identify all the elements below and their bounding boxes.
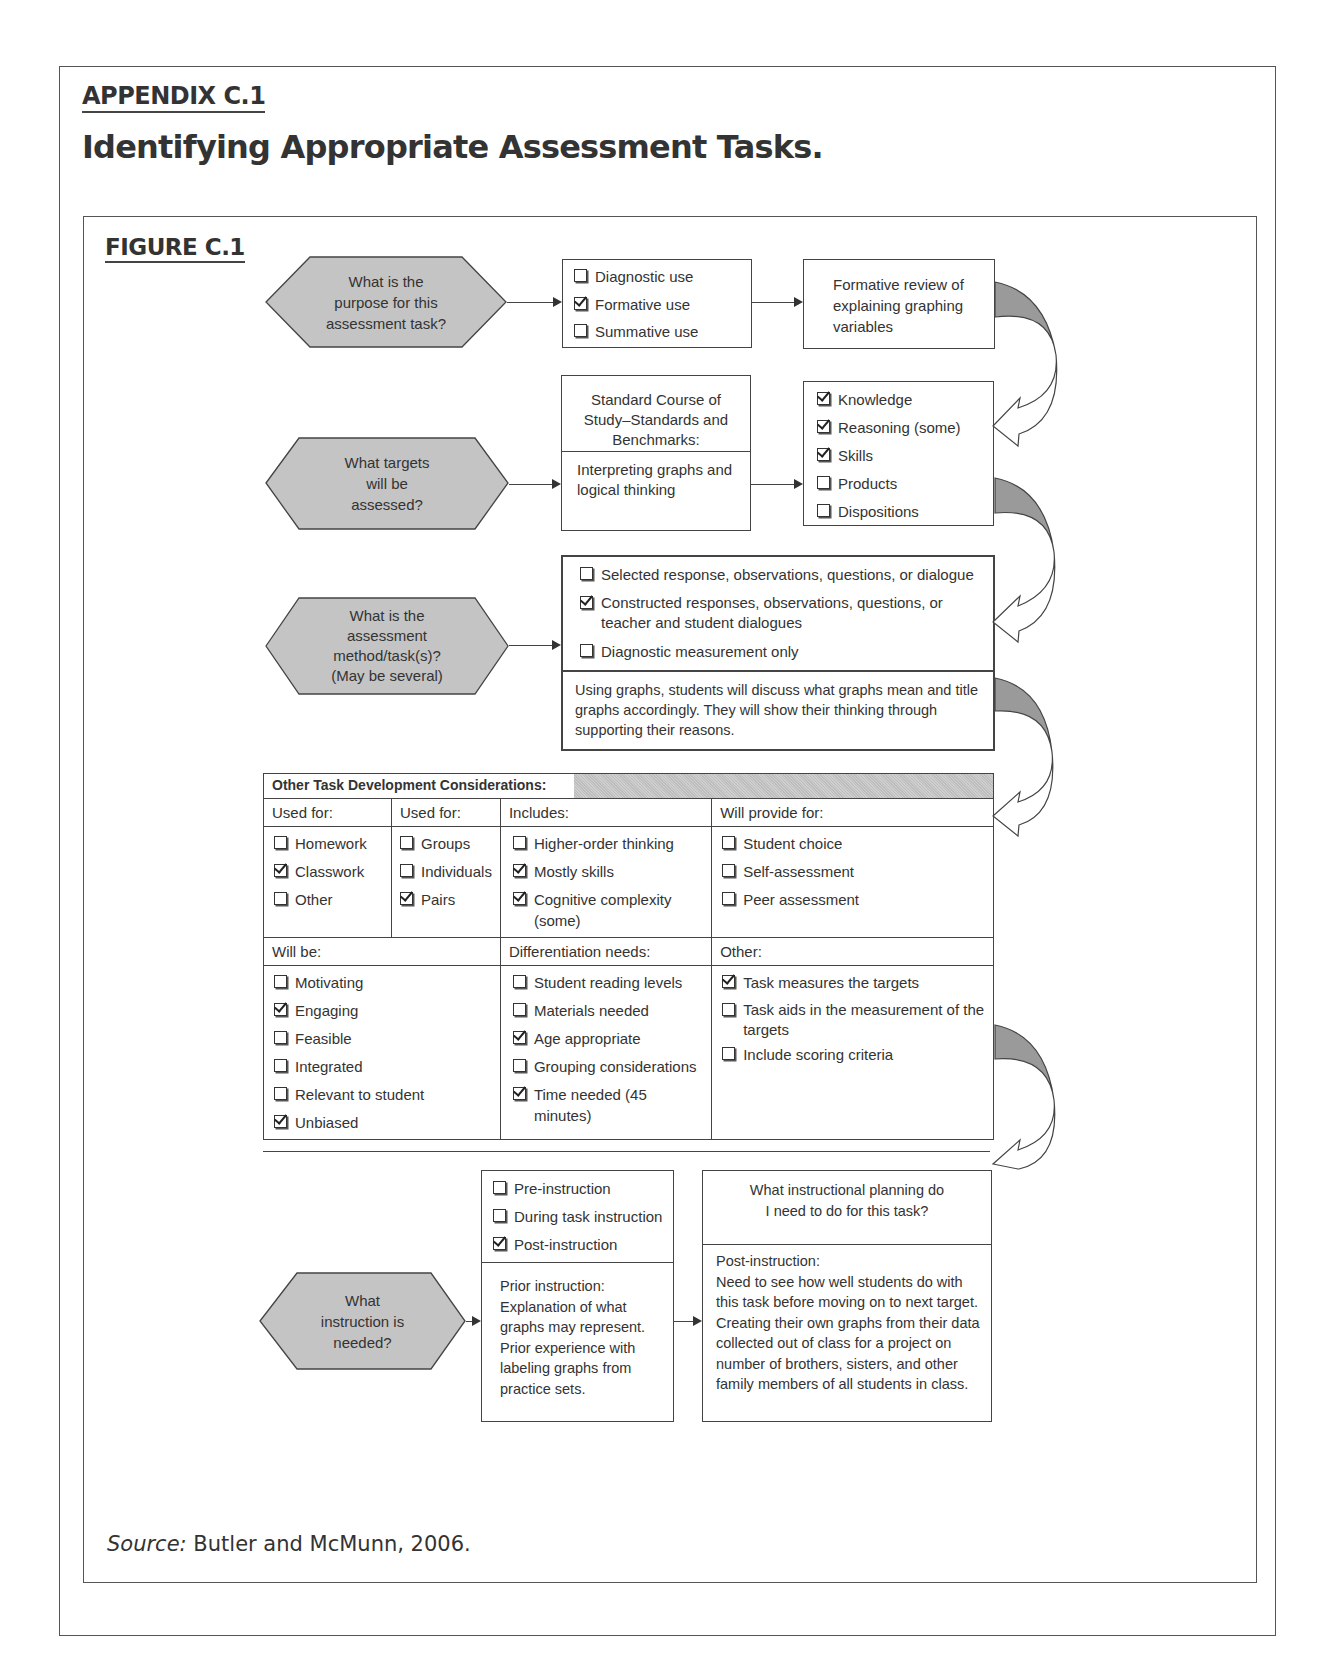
checkbox-icon[interactable] (722, 864, 735, 877)
checkbox-checked-icon[interactable] (493, 1237, 506, 1250)
checkbox-icon[interactable] (580, 567, 593, 580)
checkbox-icon[interactable] (722, 892, 735, 905)
option-time-needed[interactable]: Time needed (45 minutes) (513, 1084, 703, 1126)
option-diagnostic-use[interactable]: Diagnostic use (574, 266, 751, 287)
checkbox-checked-icon[interactable] (817, 392, 830, 405)
option-pairs[interactable]: Pairs (400, 889, 492, 910)
checkbox-icon[interactable] (274, 836, 287, 849)
checkbox-checked-icon[interactable] (400, 892, 413, 905)
checkbox-icon[interactable] (493, 1181, 506, 1194)
option-cognitive-complexity[interactable]: Cognitive complexity (some) (513, 889, 703, 931)
option-label: Task aids in the measurement of the targ… (743, 1000, 985, 1040)
option-task-measures-targets[interactable]: Task measures the targets (722, 972, 985, 993)
option-feasible[interactable]: Feasible (274, 1028, 492, 1049)
checkbox-checked-icon[interactable] (513, 864, 526, 877)
checkbox-checked-icon[interactable] (574, 297, 587, 310)
checkbox-icon[interactable] (513, 975, 526, 988)
option-unbiased[interactable]: Unbiased (274, 1112, 492, 1133)
checkbox-checked-icon[interactable] (513, 1031, 526, 1044)
checkbox-icon[interactable] (274, 1031, 287, 1044)
checkbox-checked-icon[interactable] (274, 864, 287, 877)
option-other[interactable]: Other (274, 889, 383, 910)
checkbox-icon[interactable] (817, 476, 830, 489)
target-skills[interactable]: Skills (817, 445, 993, 466)
checkbox-icon[interactable] (722, 836, 735, 849)
option-grouping-considerations[interactable]: Grouping considerations (513, 1056, 703, 1077)
checkbox-icon[interactable] (400, 836, 413, 849)
method-diagnostic-measurement[interactable]: Diagnostic measurement only (580, 641, 983, 662)
option-label: Motivating (295, 972, 363, 993)
option-materials-needed[interactable]: Materials needed (513, 1000, 703, 1021)
option-peer-assessment[interactable]: Peer assessment (722, 889, 985, 910)
checkbox-icon[interactable] (580, 644, 593, 657)
target-knowledge[interactable]: Knowledge (817, 389, 993, 410)
option-motivating[interactable]: Motivating (274, 972, 492, 993)
checkbox-icon[interactable] (274, 975, 287, 988)
source-citation: Source: Butler and McMunn, 2006. (107, 1532, 471, 1556)
checkbox-checked-icon[interactable] (817, 448, 830, 461)
option-homework[interactable]: Homework (274, 833, 383, 854)
arrow-right-icon (794, 297, 803, 307)
option-relevant-to-student[interactable]: Relevant to student (274, 1084, 492, 1105)
planning-question: What instructional planning do I need to… (703, 1171, 991, 1245)
checkbox-icon[interactable] (274, 1059, 287, 1072)
option-integrated[interactable]: Integrated (274, 1056, 492, 1077)
checkbox-checked-icon[interactable] (817, 420, 830, 433)
option-summative-use[interactable]: Summative use (574, 321, 751, 342)
table-row: Motivating Engaging Feasible Integrated … (264, 966, 994, 1140)
target-products[interactable]: Products (817, 473, 993, 494)
curved-arrow-icon (993, 1025, 1055, 1169)
target-reasoning[interactable]: Reasoning (some) (817, 417, 993, 438)
option-include-scoring-criteria[interactable]: Include scoring criteria (722, 1044, 985, 1065)
option-engaging[interactable]: Engaging (274, 1000, 492, 1021)
option-post-instruction[interactable]: Post-instruction (493, 1234, 673, 1255)
option-higher-order-thinking[interactable]: Higher-order thinking (513, 833, 703, 854)
checkbox-checked-icon[interactable] (274, 1003, 287, 1016)
method-options-section: Selected response, observations, questio… (563, 557, 993, 672)
option-pre-instruction[interactable]: Pre-instruction (493, 1178, 673, 1199)
checkbox-checked-icon[interactable] (513, 892, 526, 905)
checkbox-icon[interactable] (722, 1047, 735, 1060)
option-task-aids-measurement[interactable]: Task aids in the measurement of the targ… (722, 1000, 985, 1040)
option-mostly-skills[interactable]: Mostly skills (513, 861, 703, 882)
checkbox-icon[interactable] (574, 324, 587, 337)
option-individuals[interactable]: Individuals (400, 861, 492, 882)
checkbox-icon[interactable] (493, 1209, 506, 1222)
option-student-choice[interactable]: Student choice (722, 833, 985, 854)
checkbox-checked-icon[interactable] (580, 596, 593, 609)
option-groups[interactable]: Groups (400, 833, 492, 854)
method-description: Using graphs, students will discuss what… (563, 672, 993, 740)
checkbox-icon[interactable] (513, 1003, 526, 1016)
option-during-task-instruction[interactable]: During task instruction (493, 1206, 673, 1227)
checkbox-icon[interactable] (274, 892, 287, 905)
method-selected-response[interactable]: Selected response, observations, questio… (580, 564, 983, 585)
option-age-appropriate[interactable]: Age appropriate (513, 1028, 703, 1049)
checkbox-icon[interactable] (274, 1087, 287, 1100)
option-student-reading-levels[interactable]: Student reading levels (513, 972, 703, 993)
method-constructed-responses[interactable]: Constructed responses, observations, que… (580, 593, 983, 633)
option-label: Mostly skills (534, 861, 614, 882)
option-classwork[interactable]: Classwork (274, 861, 383, 882)
option-self-assessment[interactable]: Self-assessment (722, 861, 985, 882)
option-formative-use[interactable]: Formative use (574, 294, 751, 315)
option-label: Pre-instruction (514, 1178, 611, 1199)
checkbox-icon[interactable] (513, 1059, 526, 1072)
option-label: Student choice (743, 833, 842, 854)
targets-box: Knowledge Reasoning (some) Skills Produc… (803, 381, 994, 526)
option-label: Age appropriate (534, 1028, 641, 1049)
checkbox-icon[interactable] (722, 1003, 735, 1016)
purpose-options: Diagnostic use Formative use Summative u… (574, 266, 751, 342)
checkbox-icon[interactable] (817, 504, 830, 517)
question-text: What targets will be assessed? (265, 437, 509, 530)
option-label: Diagnostic measurement only (601, 641, 799, 662)
checkbox-checked-icon[interactable] (722, 975, 735, 988)
checkbox-checked-icon[interactable] (513, 1087, 526, 1100)
checkbox-checked-icon[interactable] (274, 1115, 287, 1128)
source-text: Butler and McMunn, 2006. (193, 1532, 470, 1556)
options-cell: Groups Individuals Pairs (392, 827, 501, 938)
checkbox-icon[interactable] (574, 269, 587, 282)
connector-line (507, 302, 553, 303)
checkbox-icon[interactable] (513, 836, 526, 849)
target-dispositions[interactable]: Dispositions (817, 501, 993, 522)
checkbox-icon[interactable] (400, 864, 413, 877)
